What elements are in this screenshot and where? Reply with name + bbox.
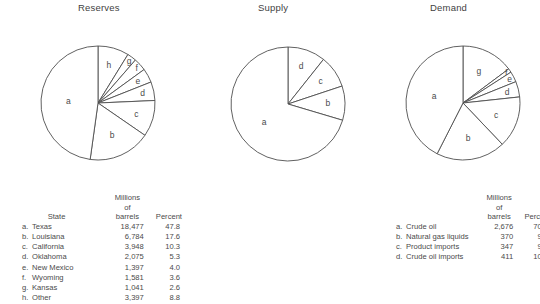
pie-slice-label-e: e (507, 74, 512, 84)
chart-panel-demand: Demand gfedcba Millions of barrels Perce… (372, 0, 540, 304)
header-unit-line2: of (105, 203, 150, 213)
row-key: g. (22, 283, 32, 293)
row-label: b.Louisiana (22, 232, 105, 242)
table-header-row: State Millions of barrels Percent (22, 193, 188, 222)
pie-slice-label-g: g (476, 66, 481, 76)
row-value: 18,477 (105, 222, 150, 232)
table-reserves: State Millions of barrels Percent a.Texa… (22, 193, 188, 303)
table-row: e.New Mexico1,3974.0 (22, 263, 188, 273)
pie-slice-label-c: c (319, 76, 324, 86)
row-value: 1,041 (105, 283, 150, 293)
row-key: a. (22, 222, 32, 232)
row-value: 6,784 (105, 232, 150, 242)
row-key: h. (22, 293, 32, 303)
pie-wrap-demand: gfedcba (372, 18, 540, 190)
row-key: f. (22, 273, 32, 283)
pie-slice-label-b: b (466, 133, 471, 143)
row-key: c. (22, 242, 32, 252)
row-percent: 17.6 (150, 232, 188, 242)
row-value: 1,581 (105, 273, 150, 283)
pie-slice-label-c: c (134, 109, 139, 119)
row-label: g.Kansas (22, 283, 105, 293)
chart-title-supply: Supply (258, 2, 288, 13)
pie-slice-label-h: h (107, 60, 112, 70)
pie-chart-demand: gfedcba (395, 18, 535, 188)
table-row: c.California3,94810.3 (22, 242, 188, 252)
chart-panel-supply: Supply dcba Millions of barrels Percent … (196, 0, 372, 304)
row-value: 2,075 (105, 252, 150, 262)
header-unit-line1: Millions (105, 193, 150, 203)
data-table-reserves: State Millions of barrels Percent a.Texa… (22, 193, 188, 303)
pie-slice-label-c: c (494, 110, 499, 120)
pie-slice-label-d: d (299, 61, 304, 71)
pie-slice-label-d: d (505, 87, 510, 97)
row-percent: 10.3 (150, 242, 188, 252)
pie-chart-reserves: hgfedcba (23, 18, 173, 188)
header-percent: Percent (150, 193, 188, 222)
row-percent: 3.6 (150, 273, 188, 283)
row-value: 3,948 (105, 242, 150, 252)
row-key: b. (22, 232, 32, 242)
row-percent: 5.3 (150, 252, 188, 262)
header-unit-line3: barrels (105, 212, 150, 222)
header-category: State (22, 193, 105, 222)
pie-chart-supply: dcba (220, 18, 360, 188)
pie-slice-label-a: a (66, 96, 71, 106)
pie-slice-label-a: a (432, 91, 437, 101)
row-label: d.Oklahoma (22, 252, 105, 262)
row-label: f.Wyoming (22, 273, 105, 283)
row-percent: 47.8 (150, 222, 188, 232)
row-percent: 2.6 (150, 283, 188, 293)
table-row: g.Kansas1,0412.6 (22, 283, 188, 293)
table-row: b.Louisiana6,78417.6 (22, 232, 188, 242)
row-label: a.Texas (22, 222, 105, 232)
pie-wrap-reserves: hgfedcba (0, 18, 196, 190)
row-label: e.New Mexico (22, 263, 105, 273)
table-row: d.Oklahoma2,0755.3 (22, 252, 188, 262)
pie-slice-label-a: a (262, 117, 267, 127)
pie-slice-label-d: d (140, 88, 145, 98)
header-unit: Millions of barrels (105, 193, 150, 222)
pie-slice-label-g: g (127, 56, 132, 66)
pie-wrap-supply: dcba (196, 18, 372, 190)
table-body-reserves: a.Texas18,47747.8b.Louisiana6,78417.6c.C… (22, 222, 188, 304)
pie-slice-label-b: b (110, 130, 115, 140)
table-row: h.Other3,3978.8 (22, 293, 188, 303)
table-row: a.Texas18,47747.8 (22, 222, 188, 232)
row-label: h.Other (22, 293, 105, 303)
chart-title-reserves: Reserves (78, 2, 120, 13)
row-key: d. (22, 252, 32, 262)
row-percent: 4.0 (150, 263, 188, 273)
row-label: c.California (22, 242, 105, 252)
table-row: f.Wyoming1,5813.6 (22, 273, 188, 283)
pie-slice-label-b: b (326, 98, 331, 108)
chart-panel-reserves: Reserves hgfedcba State Millions of barr… (0, 0, 196, 304)
row-value: 1,397 (105, 263, 150, 273)
row-percent: 8.8 (150, 293, 188, 303)
chart-title-demand: Demand (430, 2, 467, 13)
row-value: 3,397 (105, 293, 150, 303)
row-key: e. (22, 263, 32, 273)
pie-slice-label-e: e (136, 76, 141, 86)
